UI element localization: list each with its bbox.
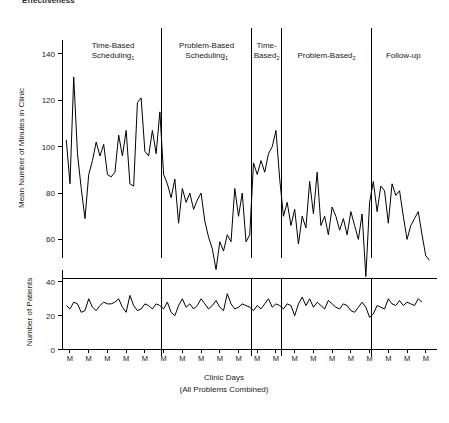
y-tick-label: 140 — [42, 50, 56, 59]
x-tick-label: M — [67, 354, 73, 363]
x-tick-label: M — [104, 354, 110, 363]
patients-series-line — [66, 294, 422, 318]
x-axis-title: Clinic Days — [204, 373, 244, 382]
bottom-y-tick-labels: 02040 — [46, 278, 55, 355]
x-tick-label: M — [160, 354, 166, 363]
x-tick-label: M — [254, 354, 260, 363]
x-axis-tick-labels: MMMMMMMMMMMMMMMMMMMM — [67, 354, 429, 363]
y-tick-label: 100 — [42, 143, 56, 152]
x-tick-label: M — [385, 354, 391, 363]
x-tick-label: M — [217, 354, 223, 363]
y-tick-label: 0 — [51, 346, 56, 355]
phase-subscript: 1 — [225, 55, 228, 61]
top-y-axis-title: Mean Number of Minutes in Clinic — [17, 88, 26, 208]
x-tick-label: M — [123, 354, 129, 363]
x-tick-label: M — [86, 354, 92, 363]
bottom-panel: 02040 Number of Patients MMMMMMMMMMMMMMM… — [25, 270, 437, 363]
top-y-ticks — [58, 54, 63, 240]
x-tick-label: M — [423, 354, 429, 363]
phase-label-tb2-line2: Based2 — [254, 51, 280, 61]
phase-subscript: 2 — [353, 55, 356, 61]
x-axis-ticks — [70, 350, 426, 354]
top-panel: 6080100120140 Mean Number of Minutes in … — [17, 28, 430, 277]
line-chart: 6080100120140 Mean Number of Minutes in … — [0, 0, 449, 423]
x-tick-label: M — [348, 354, 354, 363]
y-tick-label: 60 — [46, 235, 55, 244]
y-tick-label: 120 — [42, 96, 56, 105]
top-y-tick-labels: 6080100120140 — [42, 50, 56, 245]
bottom-y-ticks — [58, 282, 63, 350]
y-tick-label: 40 — [46, 278, 55, 287]
x-tick-label: M — [235, 354, 241, 363]
phase-label-tb2: Time- — [257, 41, 277, 50]
x-tick-label: M — [310, 354, 316, 363]
bottom-y-axis-title: Number of Patients — [25, 278, 34, 346]
phase-subscript: 1 — [131, 55, 134, 61]
x-tick-label: M — [273, 354, 279, 363]
x-tick-label: M — [329, 354, 335, 363]
top-phase-dividers — [162, 28, 372, 258]
phase-label-pbs1: Problem-Based — [179, 41, 234, 50]
chart-figure: Effectiveness 6080100120140 Mean Number … — [0, 0, 449, 423]
y-tick-label: 80 — [46, 189, 55, 198]
x-tick-label: M — [142, 354, 148, 363]
x-tick-label: M — [292, 354, 298, 363]
phase-label-tbs1-line2: Scheduling1 — [92, 51, 135, 61]
phase-label-followup: Follow-up — [386, 51, 421, 60]
minutes-series-line — [66, 77, 429, 276]
phase-label-pbs1-line2: Scheduling1 — [185, 51, 228, 61]
bottom-phase-dividers — [162, 279, 372, 357]
phase-subscript: 2 — [276, 55, 279, 61]
y-tick-label: 20 — [46, 312, 55, 321]
x-tick-label: M — [198, 354, 204, 363]
x-tick-label: M — [179, 354, 185, 363]
phase-label-pb2: Problem-Based2 — [297, 51, 355, 61]
x-tick-label: M — [404, 354, 410, 363]
phase-label-tbs1: Time-Based — [92, 41, 135, 50]
top-caption: Effectiveness — [22, 0, 75, 4]
x-axis-subtitle: (All Problems Combined) — [180, 385, 269, 394]
x-tick-label: M — [366, 354, 372, 363]
